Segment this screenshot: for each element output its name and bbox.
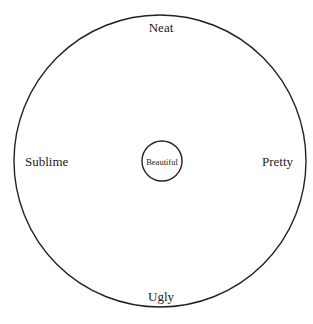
label-beautiful: Beautiful [146,157,178,167]
aesthetic-diagram: Neat Sublime Pretty Ugly Beautiful [0,0,313,324]
label-ugly: Ugly [148,289,175,304]
label-pretty: Pretty [262,154,294,169]
label-neat: Neat [149,20,174,35]
label-sublime: Sublime [25,154,69,169]
